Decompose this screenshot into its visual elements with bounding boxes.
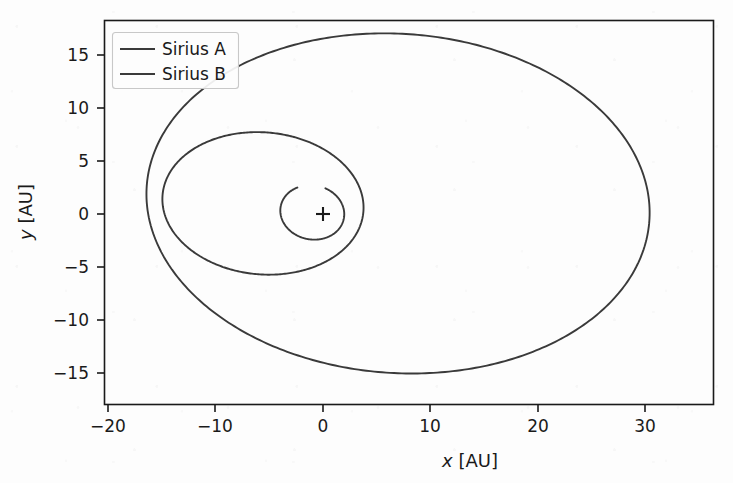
legend[interactable]: Sirius A Sirius B [113,33,239,89]
chart-canvas: −20 −10 0 10 20 30 15 10 5 0 −5 −10 −15 [0,0,733,483]
legend-label-sirius-b: Sirius B [162,64,226,84]
legend-label-sirius-a: Sirius A [162,39,226,59]
orbit-plot: −20 −10 0 10 20 30 15 10 5 0 −5 −10 −15 [0,0,733,483]
